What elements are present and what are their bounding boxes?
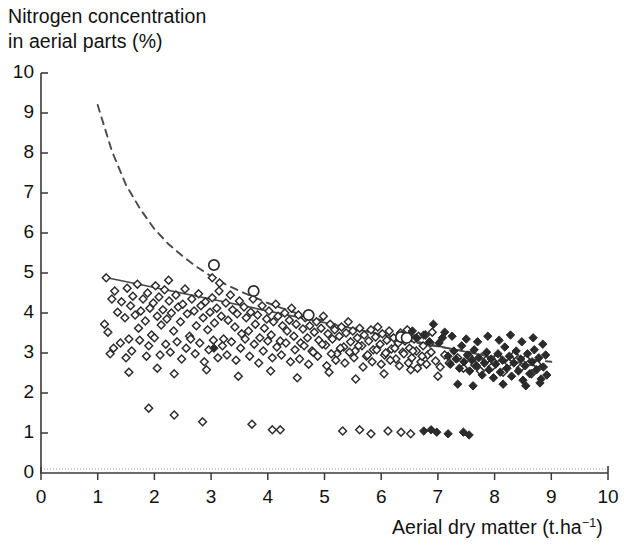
data-point-open-diamond — [123, 284, 131, 292]
y-tick-label: 3 — [0, 341, 34, 363]
data-point-open-diamond — [365, 337, 373, 345]
data-point-open-diamond — [168, 309, 176, 317]
data-point-open-diamond — [223, 351, 231, 359]
data-point-filled-diamond — [495, 336, 503, 344]
data-point-open-diamond — [153, 312, 161, 320]
data-point-open-diamond — [256, 334, 264, 342]
data-point-open-diamond — [161, 286, 169, 294]
data-point-open-diamond — [317, 324, 325, 332]
data-point-open-diamond — [250, 340, 258, 348]
data-point-open-diamond — [121, 314, 129, 322]
data-point-open-diamond — [206, 308, 214, 316]
data-point-open-diamond — [265, 307, 273, 315]
data-point-filled-diamond — [510, 359, 518, 367]
data-point-open-diamond — [177, 318, 185, 326]
x-tick-label: 7 — [418, 486, 458, 508]
data-point-open-diamond — [133, 280, 141, 288]
data-point-open-diamond — [214, 354, 222, 362]
data-point-open-diamond — [304, 334, 312, 342]
data-point-open-diamond — [259, 347, 267, 355]
data-point-open-diamond — [268, 426, 276, 434]
data-point-open-diamond — [125, 335, 133, 343]
y-tick-label: 0 — [0, 461, 34, 483]
data-point-open-diamond — [165, 297, 173, 305]
data-point-open-diamond — [135, 324, 143, 332]
y-tick-label: 4 — [0, 301, 34, 323]
data-point-open-diamond — [182, 344, 190, 352]
data-point-filled-diamond — [539, 340, 547, 348]
data-point-open-diamond — [285, 316, 293, 324]
data-point-open-diamond — [246, 352, 254, 360]
data-point-open-diamond — [200, 358, 208, 366]
data-point-open-diamond — [368, 358, 376, 366]
data-point-filled-diamond — [506, 331, 514, 339]
x-tick-label: 9 — [531, 486, 571, 508]
data-point-open-diamond — [240, 303, 248, 311]
x-tick-label: 2 — [134, 486, 174, 508]
data-point-open-diamond — [114, 308, 122, 316]
data-point-open-diamond — [232, 356, 240, 364]
data-point-open-diamond — [344, 318, 352, 326]
data-point-open-diamond — [163, 315, 171, 323]
data-point-open-diamond — [199, 418, 207, 426]
data-point-open-diamond — [384, 427, 392, 435]
data-point-open-diamond — [288, 304, 296, 312]
data-point-open-diamond — [380, 370, 388, 378]
data-point-open-diamond — [237, 344, 245, 352]
data-point-open-diamond — [178, 355, 186, 363]
y-tick-label: 9 — [0, 101, 34, 123]
y-tick-label: 8 — [0, 141, 34, 163]
data-point-open-diamond — [102, 274, 110, 282]
data-point-open-diamond — [203, 366, 211, 374]
data-point-filled-diamond — [518, 338, 526, 346]
data-point-open-diamond — [216, 279, 224, 287]
data-point-open-diamond — [434, 372, 442, 380]
data-point-open-diamond — [155, 293, 163, 301]
data-point-open-diamond — [231, 323, 239, 331]
data-point-circle — [248, 286, 258, 296]
data-point-open-diamond — [118, 298, 126, 306]
data-point-open-diamond — [145, 342, 153, 350]
data-point-filled-diamond — [499, 380, 507, 388]
data-point-filled-diamond — [429, 320, 437, 328]
data-point-open-diamond — [255, 359, 263, 367]
data-point-open-diamond — [211, 319, 219, 327]
data-point-open-diamond — [136, 336, 144, 344]
data-point-open-diamond — [217, 312, 225, 320]
data-point-open-diamond — [104, 328, 112, 336]
data-point-open-diamond — [159, 306, 167, 314]
x-tick-label: 8 — [475, 486, 515, 508]
data-point-filled-diamond — [529, 334, 537, 342]
data-point-open-diamond — [290, 332, 298, 340]
data-point-open-diamond — [332, 356, 340, 364]
data-point-open-diamond — [260, 324, 268, 332]
data-point-open-diamond — [248, 420, 256, 428]
y-tick-label: 7 — [0, 181, 34, 203]
data-point-filled-diamond — [444, 430, 452, 438]
data-point-open-diamond — [101, 320, 109, 328]
data-point-filled-diamond — [501, 343, 509, 351]
data-point-open-diamond — [215, 287, 223, 295]
axis-spine — [41, 73, 608, 473]
data-point-open-diamond — [359, 363, 367, 371]
data-point-open-diamond — [127, 302, 135, 310]
data-point-open-diamond — [219, 342, 227, 350]
data-point-open-diamond — [367, 430, 375, 438]
data-point-open-diamond — [170, 327, 178, 335]
data-point-filled-diamond — [469, 382, 477, 390]
data-point-open-diamond — [234, 372, 242, 380]
data-point-open-diamond — [407, 430, 415, 438]
data-point-open-diamond — [268, 354, 276, 362]
data-point-open-diamond — [108, 295, 116, 303]
data-point-filled-diamond — [484, 332, 492, 340]
data-point-open-diamond — [377, 360, 385, 368]
data-point-filled-diamond — [530, 346, 538, 354]
data-point-open-diamond — [222, 299, 230, 307]
data-point-filled-diamond — [473, 338, 481, 346]
data-point-open-diamond — [397, 428, 405, 436]
data-point-open-diamond — [128, 347, 136, 355]
data-point-open-diamond — [166, 348, 174, 356]
data-point-open-diamond — [199, 314, 207, 322]
data-point-open-diamond — [156, 351, 164, 359]
data-point-open-diamond — [192, 322, 200, 330]
